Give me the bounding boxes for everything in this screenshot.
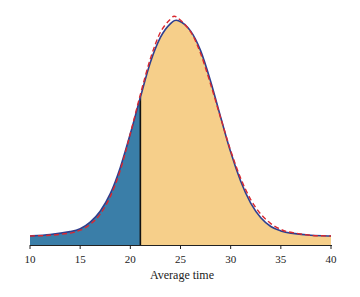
x-tick-label: 35 xyxy=(275,253,286,265)
left-tail-area xyxy=(30,97,140,245)
x-tick-label: 40 xyxy=(326,253,337,265)
x-tick-label: 20 xyxy=(125,253,136,265)
right-area xyxy=(140,20,331,245)
x-axis-label: Average time xyxy=(0,268,360,283)
x-tick-label: 15 xyxy=(75,253,86,265)
x-tick-label: 30 xyxy=(225,253,236,265)
x-tick-label: 10 xyxy=(25,253,36,265)
x-tick-label: 25 xyxy=(175,253,186,265)
